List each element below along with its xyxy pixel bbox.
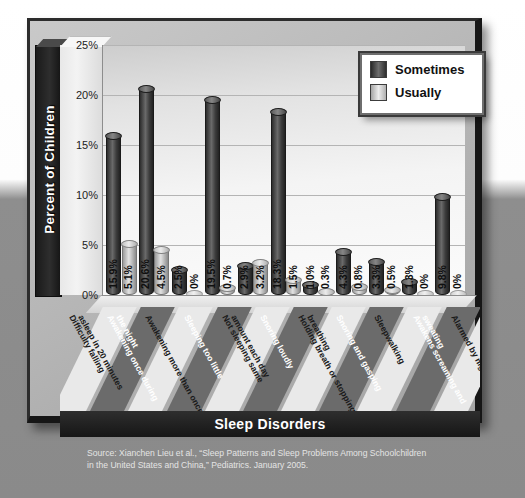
- bar-top-ellipse: [105, 132, 122, 140]
- y-axis-tick-label: 10%: [76, 189, 98, 201]
- chart-legend: Sometimes Usually: [360, 53, 484, 115]
- bar-sometimes: 20.6%: [139, 89, 154, 295]
- legend-swatch-sometimes-icon: [370, 61, 387, 78]
- y-axis-tick-band: 0%5%10%15%20%25%: [60, 45, 103, 295]
- bar-value-label: 2.9%: [238, 265, 250, 289]
- bar-usually: 5.1%: [122, 244, 137, 295]
- bar-value-label: 3.3%: [370, 265, 382, 289]
- bar-value-label: 4.5%: [155, 265, 167, 289]
- y-axis-tick-label: 0%: [82, 289, 98, 301]
- bar-value-label: 0%: [418, 274, 430, 289]
- bar-value-label: 18.3%: [271, 259, 283, 289]
- y-axis-tick-label: 5%: [82, 239, 98, 251]
- bar-top-ellipse: [138, 85, 155, 93]
- bar-value-label: 2.5%: [172, 265, 184, 289]
- legend-swatch-usually-icon: [370, 84, 387, 101]
- legend-label-sometimes: Sometimes: [395, 62, 464, 77]
- bar-value-label: 20.6%: [139, 259, 151, 289]
- bar-value-label: 4.3%: [337, 265, 349, 289]
- bar-sometimes: 19.5%: [205, 100, 220, 295]
- y-axis-tick-label: 20%: [76, 89, 98, 101]
- bar-value-label: 19.5%: [205, 259, 217, 289]
- bar-sometimes: 1.0%: [303, 285, 318, 295]
- bar-usually: 4.5%: [154, 250, 169, 295]
- x-axis-title: Sleep Disorders: [214, 416, 325, 432]
- bar-top-ellipse: [204, 96, 221, 104]
- bar-value-label: 0.5%: [385, 265, 397, 289]
- bar-top-ellipse: [434, 193, 451, 201]
- legend-label-usually: Usually: [395, 85, 441, 100]
- y-axis-title: Percent of Children: [42, 45, 57, 295]
- bar-value-label: 0.3%: [319, 265, 331, 289]
- y-axis-tick-label: 25%: [76, 39, 98, 51]
- bar-sometimes: 2.5%: [172, 270, 187, 295]
- bar-value-label: 0.7%: [221, 265, 233, 289]
- bar-sometimes: 18.3%: [271, 112, 286, 295]
- bar-sometimes: 4.3%: [336, 252, 351, 295]
- legend-item-usually: Usually: [370, 84, 482, 101]
- bar-value-label: 3.2%: [254, 265, 266, 289]
- bar-value-label: 15.9%: [107, 259, 119, 289]
- bar-usually: 1.5%: [286, 280, 301, 295]
- source-line-1: Source: Xianchen Lieu et al., “Sleep Pat…: [87, 448, 487, 460]
- bar-sometimes: 1.3%: [402, 282, 417, 295]
- bar-top-ellipse: [270, 108, 287, 116]
- x-axis-title-panel: Sleep Disorders: [60, 411, 480, 437]
- y-axis-tick-label: 15%: [76, 139, 98, 151]
- bar-top-ellipse: [121, 240, 138, 248]
- y-axis-title-panel: Percent of Children: [35, 45, 62, 297]
- bar-value-label: 0.8%: [352, 265, 364, 289]
- bar-value-label: 0%: [451, 274, 463, 289]
- bar-value-label: 5.1%: [122, 265, 134, 289]
- bar-sometimes: 3.3%: [369, 262, 384, 295]
- bar-sometimes: 2.9%: [238, 266, 253, 295]
- gridline: [103, 45, 465, 46]
- bar-value-label: 0%: [188, 274, 200, 289]
- bar-sometimes: 9.8%: [435, 197, 450, 295]
- source-note: Source: Xianchen Lieu et al., “Sleep Pat…: [87, 448, 487, 471]
- bar-value-label: 1.3%: [403, 265, 415, 289]
- legend-item-sometimes: Sometimes: [370, 61, 482, 78]
- chart-container: Percent of Children 0%5%10%15%20%25% 15.…: [27, 18, 482, 423]
- bar-sometimes: 15.9%: [106, 136, 121, 295]
- bar-usually: 0.8%: [352, 287, 367, 295]
- bar-value-label: 9.8%: [436, 265, 448, 289]
- bar-value-label: 1.5%: [287, 265, 299, 289]
- bar-usually: 0.7%: [220, 288, 235, 295]
- bar-value-label: 1.0%: [304, 265, 316, 289]
- source-line-2: in the United States and China,” Pediatr…: [87, 460, 487, 472]
- bar-usually: 3.2%: [253, 263, 268, 295]
- x-axis-category-labels: Difficulty fallingasleep in 20 minutesAw…: [60, 307, 480, 411]
